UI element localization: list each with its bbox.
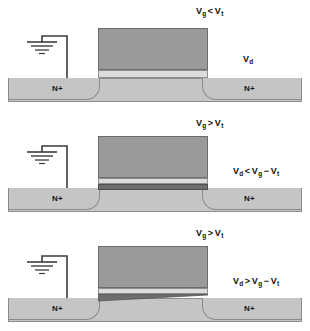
minus-operator: − [262,276,271,286]
minus-operator: − [262,166,271,176]
gate-electrode-saturation [98,246,208,288]
panel-cutoff: Vg<Vt Vd N+ N+ [0,0,310,110]
gate-electrode-linear [98,136,208,178]
comparison-operator: > [206,118,215,128]
drain-voltage-label-cutoff: Vd [243,54,253,64]
inversion-channel-uniform [98,184,208,190]
nplus-drain-label-linear: N+ [244,194,255,203]
gate-condition-cutoff: Vg<Vt [196,6,223,16]
nplus-source-label-cutoff: N+ [52,84,63,93]
gate-condition-linear: Vg>Vt [196,118,223,128]
panel-linear: Vg>Vt Vd<Vg−Vt N+ N+ [0,110,310,220]
vg-subscript: g [202,10,206,17]
comparison-operator: > [206,228,215,238]
nplus-drain-label-saturation: N+ [244,304,255,313]
comparison-operator: < [243,166,252,176]
vt-subscript: t [277,280,279,287]
drain-condition-linear: Vd<Vg−Vt [233,166,279,176]
nplus-source-label-saturation: N+ [52,304,63,313]
vd-subscript: d [239,170,243,177]
gate-condition-saturation: Vg>Vt [196,228,223,238]
vt-subscript: t [221,10,223,17]
nplus-source-label-linear: N+ [52,194,63,203]
vg-subscript: g [258,280,262,287]
vd-subscript: d [249,58,253,65]
gate-electrode-cutoff [98,28,208,70]
drain-condition-saturation: Vd>Vg−Vt [233,276,279,286]
vt-subscript: t [277,170,279,177]
mosfet-operating-regions-figure: Vg<Vt Vd N+ N+ Vg>Vt [0,0,310,331]
comparison-operator: < [206,6,215,16]
nplus-drain-label-cutoff: N+ [244,84,255,93]
vd-subscript: d [239,280,243,287]
vg-subscript: g [202,232,206,239]
gate-oxide-cutoff [98,70,208,78]
panel-saturation: Vg>Vt Vd>Vg−Vt N+ N+ [0,220,310,330]
vg-subscript: g [258,170,262,177]
vt-subscript: t [221,232,223,239]
comparison-operator: > [243,276,252,286]
vg-subscript: g [202,122,206,129]
inversion-channel-tapered [98,294,208,302]
vt-subscript: t [221,122,223,129]
